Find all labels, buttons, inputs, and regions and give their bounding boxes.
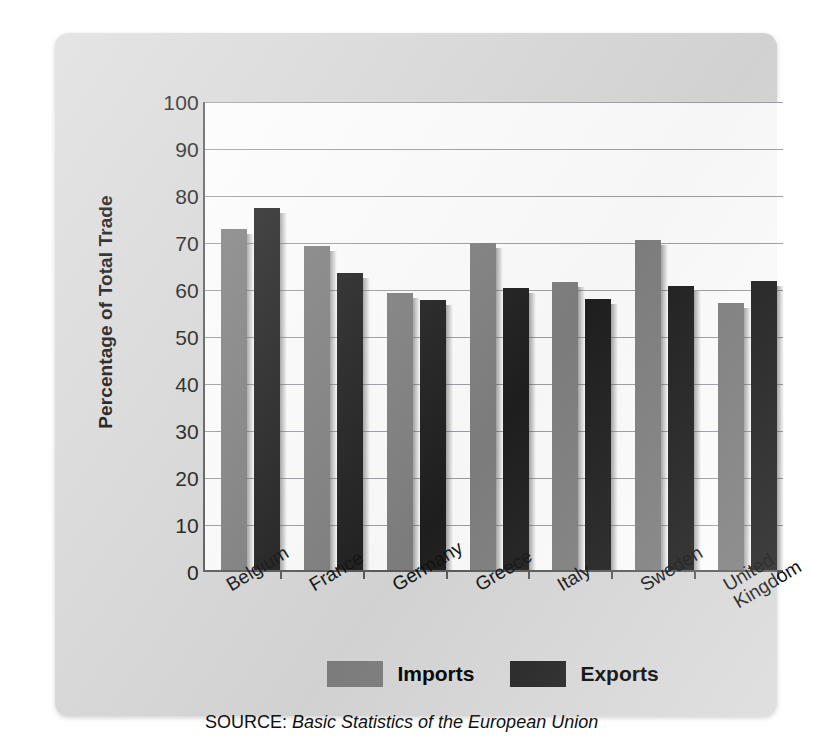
bar-imports-belgium xyxy=(221,229,247,570)
bar-exports-belgium xyxy=(254,208,280,570)
y-tick-40: 40 xyxy=(175,374,199,395)
bar-shadow xyxy=(446,305,453,570)
bar-body xyxy=(470,243,496,570)
bar-shadow xyxy=(777,286,784,570)
bar-exports-united-kingdom xyxy=(751,281,777,570)
y-axis-title: Percentage of Total Trade xyxy=(95,152,117,472)
y-axis-tick-labels: 1009080706050403020100 xyxy=(143,93,199,581)
bar-body xyxy=(552,282,578,570)
plot-canvas xyxy=(203,102,783,572)
bar-shadow xyxy=(578,287,585,570)
bar-shadow xyxy=(280,213,287,570)
bar-exports-sweden xyxy=(668,286,694,570)
bar-shadow xyxy=(529,293,536,570)
bar-group xyxy=(470,102,537,570)
bar-imports-germany xyxy=(387,293,413,570)
y-tick-70: 70 xyxy=(175,233,199,254)
bar-group xyxy=(718,102,785,570)
chart-page: Percentage of Total Trade 10090807060504… xyxy=(0,0,813,750)
bar-body xyxy=(503,288,529,570)
bar-group xyxy=(635,102,702,570)
bar-shadow xyxy=(744,308,751,570)
legend-label-exports: Exports xyxy=(580,662,658,686)
chart-legend: ImportsExports xyxy=(203,657,783,691)
y-tick-50: 50 xyxy=(175,327,199,348)
bar-body xyxy=(420,300,446,570)
bar-imports-italy xyxy=(552,282,578,570)
bar-imports-united-kingdom xyxy=(718,303,744,570)
y-tick-30: 30 xyxy=(175,421,199,442)
y-tick-90: 90 xyxy=(175,139,199,160)
bar-group xyxy=(387,102,454,570)
bar-exports-germany xyxy=(420,300,446,570)
bar-shadow xyxy=(363,278,370,571)
legend-swatch-exports xyxy=(510,661,566,687)
bar-body xyxy=(718,303,744,570)
bar-exports-italy xyxy=(585,299,611,570)
bar-body xyxy=(254,208,280,570)
y-tick-20: 20 xyxy=(175,468,199,489)
y-tick-10: 10 xyxy=(175,515,199,536)
bar-exports-france xyxy=(337,273,363,571)
bar-shadow xyxy=(611,304,618,570)
y-tick-0: 0 xyxy=(187,562,199,583)
bar-series-container xyxy=(205,102,783,570)
bar-imports-sweden xyxy=(635,240,661,570)
bar-body xyxy=(221,229,247,570)
bar-imports-greece xyxy=(470,243,496,570)
bar-body xyxy=(337,273,363,571)
bar-exports-greece xyxy=(503,288,529,570)
bar-shadow xyxy=(413,298,420,570)
bar-body xyxy=(585,299,611,570)
chart-card: Percentage of Total Trade 10090807060504… xyxy=(55,33,777,716)
plot-area xyxy=(203,102,783,572)
bar-shadow xyxy=(496,248,503,570)
bar-body xyxy=(387,293,413,570)
bar-body xyxy=(635,240,661,570)
bar-body xyxy=(304,246,330,570)
bar-group xyxy=(221,102,288,570)
bar-imports-france xyxy=(304,246,330,570)
source-citation: Basic Statistics of the European Union xyxy=(292,712,598,732)
bar-body xyxy=(751,281,777,570)
y-tick-60: 60 xyxy=(175,280,199,301)
legend-swatch-imports xyxy=(327,661,383,687)
y-tick-80: 80 xyxy=(175,186,199,207)
bar-shadow xyxy=(661,245,668,570)
y-tick-100: 100 xyxy=(163,92,199,113)
bar-body xyxy=(668,286,694,570)
bar-group xyxy=(552,102,619,570)
legend-label-imports: Imports xyxy=(397,662,474,686)
bar-shadow xyxy=(330,251,337,570)
legend-item-imports: Imports xyxy=(327,661,474,687)
source-note: SOURCE: Basic Statistics of the European… xyxy=(205,712,598,733)
bar-group xyxy=(304,102,371,570)
legend-item-exports: Exports xyxy=(510,661,658,687)
bar-shadow xyxy=(694,291,701,570)
bar-shadow xyxy=(247,234,254,570)
source-prefix: SOURCE: xyxy=(205,712,287,732)
